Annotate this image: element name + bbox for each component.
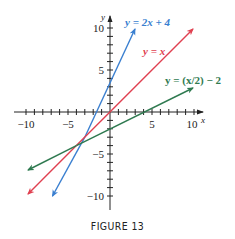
x-tick-label: −10 xyxy=(17,118,35,130)
y-axis-label: y xyxy=(100,12,105,22)
figure-caption: FIGURE 13 xyxy=(18,220,218,233)
x-tick-label: 10 xyxy=(187,118,199,130)
y-axis xyxy=(107,16,113,210)
y-tick-label: 5 xyxy=(99,64,105,76)
x-tick-label: 5 xyxy=(149,118,155,130)
chart-canvas: −10 −5 5 10 x 10 5 −5 −10 y y = 2x + 4 y… xyxy=(0,0,235,239)
x-tick-label: −5 xyxy=(62,118,74,130)
label-blue-equation: y = 2x + 4 xyxy=(123,16,170,28)
x-axis-label: x xyxy=(200,115,205,125)
label-red-equation: y = x xyxy=(141,45,166,57)
y-tick-label: −10 xyxy=(87,190,105,202)
label-green-equation: y = (x/2) − 2 xyxy=(165,74,221,87)
y-tick-label: −5 xyxy=(92,148,104,160)
y-tick-label: 10 xyxy=(93,22,105,34)
